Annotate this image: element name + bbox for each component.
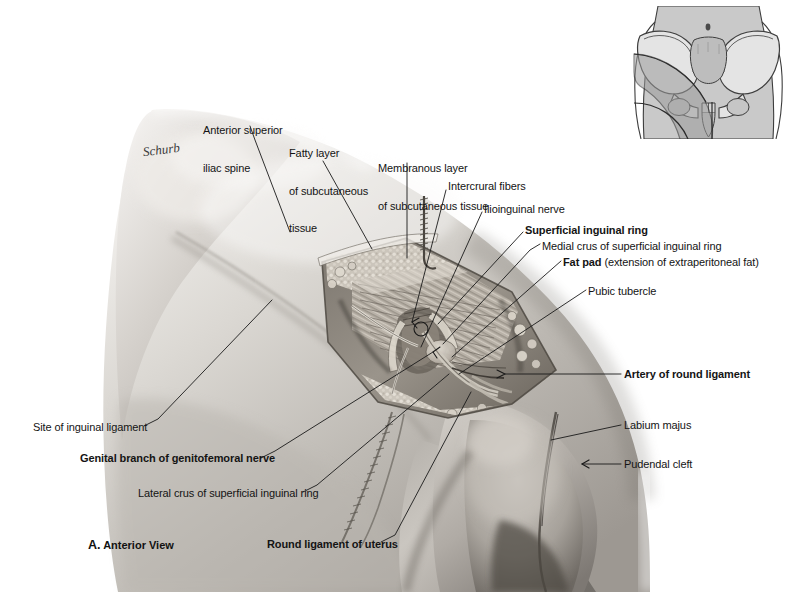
label-pudendal-cleft: Pudendal cleft [624, 458, 692, 471]
label-line: of subcutaneous tissue [378, 200, 488, 213]
label-labium-majus: Labium majus [624, 419, 691, 432]
label-line: Anterior superior [203, 124, 283, 137]
figure-caption-letter: A. [88, 538, 101, 552]
label-medial-crus-of-superficial-inguinal-ring: Medial crus of superficial inguinal ring [542, 240, 721, 253]
label-fat-pad-term: Fat pad [563, 256, 601, 268]
label-artery-of-round-ligament: Artery of round ligament [624, 368, 750, 381]
label-anterior-superior-iliac-spine: Anterior superior iliac spine [203, 99, 283, 199]
label-line: tissue [289, 222, 368, 235]
figure-caption-text: Anterior View [101, 539, 174, 551]
label-round-ligament-of-uterus: Round ligament of uterus [267, 538, 398, 551]
anatomy-plate: Schurb [0, 0, 802, 592]
figure-caption: A. Anterior View [88, 538, 174, 552]
label-genital-branch-of-genitofemoral-nerve: Genital branch of genitofemoral nerve [80, 452, 275, 465]
label-line: of subcutaneous [289, 185, 368, 198]
label-pubic-tubercle: Pubic tubercle [588, 285, 656, 298]
label-intercrural-fibers: Intercrural fibers [448, 180, 526, 193]
label-fat-pad-detail: (extension of extraperitoneal fat) [601, 256, 758, 268]
label-ilioinguinal-nerve: Ilioinguinal nerve [484, 203, 565, 216]
label-lateral-crus-of-superficial-inguinal-ring: Lateral crus of superficial inguinal rin… [138, 487, 319, 500]
label-line: Fatty layer [289, 147, 368, 160]
label-superficial-inguinal-ring: Superficial inguinal ring [525, 224, 648, 237]
label-line: Membranous layer [378, 162, 488, 175]
label-fat-pad: Fat pad (extension of extraperitoneal fa… [563, 256, 759, 269]
label-line: iliac spine [203, 162, 283, 175]
umbilicus-icon [706, 24, 711, 31]
label-site-of-inguinal-ligament: Site of inguinal ligament [33, 421, 147, 434]
orientation-inset [616, 6, 801, 139]
label-fatty-layer-of-subcutaneous-tissue: Fatty layer of subcutaneous tissue [289, 122, 368, 260]
